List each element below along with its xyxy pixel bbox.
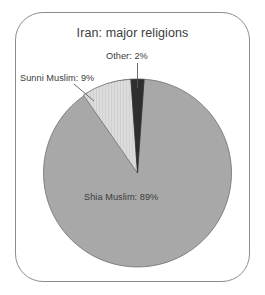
pie-label-shia: Shia Muslim: 89% — [84, 192, 158, 202]
figure-container: Iran: major religions Other: 2% Sunni Mu… — [0, 0, 265, 295]
pie-chart — [0, 0, 265, 295]
pie-label-sunni: Sunni Muslim: 9% — [20, 73, 94, 83]
pie-label-other: Other: 2% — [106, 51, 148, 61]
